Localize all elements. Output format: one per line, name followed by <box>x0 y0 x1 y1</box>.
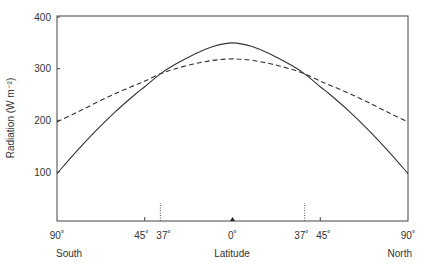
solid-series-line <box>57 43 408 174</box>
y-tick-label: 100 <box>34 167 51 178</box>
y-tick-label: 400 <box>34 12 51 23</box>
plot-area <box>57 16 408 221</box>
plot-frame <box>57 16 408 221</box>
x-tick-label: 90˚ <box>401 230 415 241</box>
x-axis-title: Latitude <box>214 248 250 259</box>
x-tick-label: 90˚ <box>50 230 64 241</box>
x-tick-label: 37˚ <box>156 230 170 241</box>
x-tick-label: 45˚ <box>316 230 330 241</box>
north-label: North <box>388 248 412 259</box>
x-tick-label: 0˚ <box>228 230 237 241</box>
y-tick-label: 300 <box>34 63 51 74</box>
dashed-series-line <box>57 59 408 122</box>
chart: 100200300400 90˚45˚37˚0˚37˚45˚90˚ Radiat… <box>0 0 426 272</box>
y-tick-label: 200 <box>34 115 51 126</box>
south-label: South <box>56 248 82 259</box>
x-tick-label: 37˚ <box>294 230 308 241</box>
equator-marker-icon <box>230 217 235 221</box>
y-axis: 100200300400 <box>34 12 60 178</box>
y-axis-title: Radiation (W m⁻²) <box>5 78 16 159</box>
x-tick-label: 45˚ <box>134 230 148 241</box>
